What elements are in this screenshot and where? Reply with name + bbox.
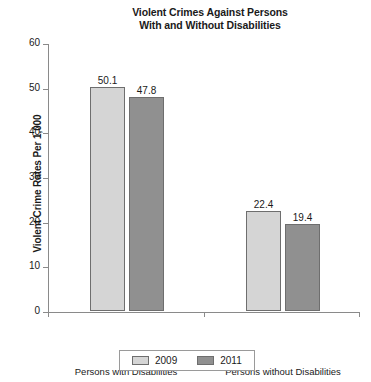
bar-label-2011-persons-with-disabilities: 47.8 xyxy=(137,85,156,96)
y-tick-label-0: 0 xyxy=(34,305,40,316)
bar-2009-persons-with-disabilities[interactable] xyxy=(90,87,125,311)
legend-swatch-2011-icon xyxy=(197,356,214,365)
bar-label-2009-persons-with-disabilities: 50.1 xyxy=(98,75,117,86)
y-tick-label-20: 20 xyxy=(29,216,40,227)
y-axis-line xyxy=(48,44,49,313)
legend-item-2009[interactable]: 2009 xyxy=(132,355,177,366)
chart-title: Violent Crimes Against Persons With and … xyxy=(60,6,360,32)
bar-2011-persons-without-disabilities[interactable] xyxy=(285,224,320,311)
legend-swatch-2009-icon xyxy=(132,356,149,365)
chart-title-line-2: With and Without Disabilities xyxy=(60,19,360,32)
y-tick-label-50: 50 xyxy=(29,82,40,93)
y-tick-label-60: 60 xyxy=(29,37,40,48)
y-tick-30: 30 xyxy=(43,178,48,179)
y-tick-label-40: 40 xyxy=(29,126,40,137)
x-tick-middle xyxy=(204,312,205,317)
legend-label-2011: 2011 xyxy=(220,355,242,366)
bar-label-2009-persons-without-disabilities: 22.4 xyxy=(254,199,273,210)
chart-legend: 2009 2011 xyxy=(119,350,255,371)
bar-2009-persons-without-disabilities[interactable] xyxy=(246,211,281,311)
chart-title-line-1: Violent Crimes Against Persons xyxy=(132,6,288,18)
y-tick-label-10: 10 xyxy=(29,260,40,271)
y-tick-40: 40 xyxy=(43,133,48,134)
bar-chart: Violent Crimes Against Persons With and … xyxy=(0,0,371,382)
bar-2011-persons-with-disabilities[interactable] xyxy=(129,97,164,311)
y-tick-20: 20 xyxy=(43,223,48,224)
y-tick-label-30: 30 xyxy=(29,171,40,182)
y-tick-50: 50 xyxy=(43,89,48,90)
plot-area: 60 50 40 30 20 10 0 50.1 47.8 22.4 xyxy=(48,44,360,312)
x-tick-end xyxy=(359,312,360,317)
legend-label-2009: 2009 xyxy=(155,355,177,366)
y-tick-60: 60 xyxy=(43,44,48,45)
bar-label-2011-persons-without-disabilities: 19.4 xyxy=(293,212,312,223)
x-tick-start xyxy=(48,312,49,317)
legend-item-2011[interactable]: 2011 xyxy=(197,355,242,366)
y-tick-10: 10 xyxy=(43,267,48,268)
